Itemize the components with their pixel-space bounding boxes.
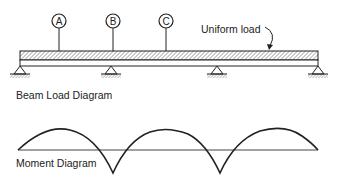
load-arrow-icon <box>265 27 273 46</box>
uniform-load-label: Uniform load <box>201 23 261 35</box>
uniform-load-band <box>20 51 318 60</box>
beam-diagram-title: Beam Load Diagram <box>16 89 113 101</box>
support-2-icon <box>101 66 121 78</box>
support-3-icon <box>207 66 227 78</box>
moment-diagram-title: Moment Diagram <box>16 157 97 169</box>
beam-and-moment-diagram: A B C Uniform load Beam Load Diagram <box>0 0 341 189</box>
beam <box>20 60 318 66</box>
marker-b: B <box>106 14 120 51</box>
support-1-icon <box>10 66 30 78</box>
marker-a-label: A <box>56 16 63 27</box>
marker-c-label: C <box>162 16 169 27</box>
marker-c: C <box>159 14 173 51</box>
marker-b-label: B <box>110 16 117 27</box>
marker-a: A <box>52 14 66 51</box>
support-4-icon <box>308 66 328 78</box>
load-arrowhead-icon <box>267 44 273 50</box>
